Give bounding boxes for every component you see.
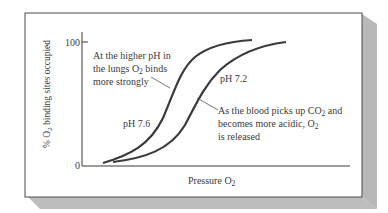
y-tick-label-0: 0 <box>75 160 80 171</box>
y-tick-label-100: 100 <box>65 37 80 48</box>
label-ph-7-2: pH 7.2 <box>220 73 247 84</box>
label-ph-7-6: pH 7.6 <box>123 118 150 129</box>
oxygen-dissociation-figure: 100 0 % O2 binding sites occupied Pressu… <box>0 0 388 213</box>
box-shadow-bottom <box>28 197 377 209</box>
box-shadow-right <box>362 14 377 209</box>
